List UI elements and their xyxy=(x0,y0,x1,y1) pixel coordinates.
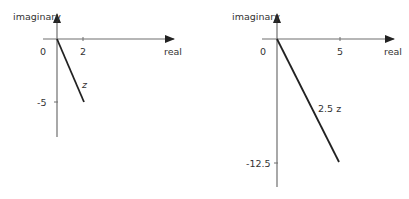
real-axis-label: real xyxy=(164,46,182,57)
right-complex-plane: imaginary real 0 5 -12.5 2.5 z xyxy=(232,11,402,187)
vector-label: z xyxy=(81,79,88,90)
imaginary-tick-label: -12.5 xyxy=(246,158,271,169)
imaginary-axis-label: imaginary xyxy=(232,11,280,22)
vector-label: 2.5 z xyxy=(318,103,341,114)
real-tick-label: 2 xyxy=(80,46,86,57)
complex-plane-diagrams: imaginary real 0 2 -5 z imaginary real 0… xyxy=(0,0,409,199)
real-tick-label: 5 xyxy=(337,46,343,57)
left-complex-plane: imaginary real 0 2 -5 z xyxy=(13,11,182,137)
origin-label: 0 xyxy=(40,46,46,57)
real-axis-label: real xyxy=(384,46,402,57)
imaginary-tick-label: -5 xyxy=(37,97,46,108)
vector-2-5z xyxy=(277,39,339,162)
imaginary-axis-label: imaginary xyxy=(13,11,61,22)
origin-label: 0 xyxy=(260,46,266,57)
